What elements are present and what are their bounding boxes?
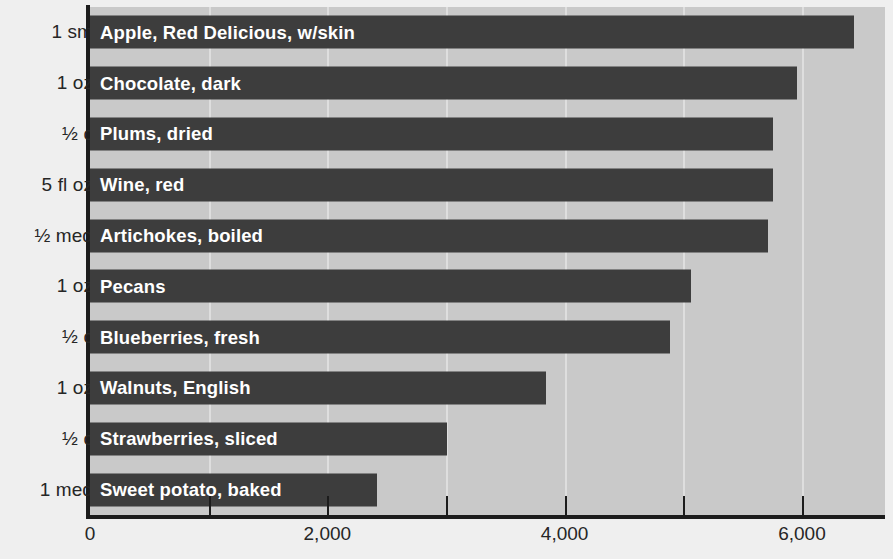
bar-row: 1 smApple, Red Delicious, w/skin (0, 7, 893, 58)
bar[interactable]: Artichokes, boiled (90, 219, 768, 252)
bar-row: 1 ozWalnuts, English (0, 363, 893, 414)
serving-size-label: ½ c (0, 326, 93, 348)
x-axis-tick-4000 (565, 496, 567, 515)
bar-row: ½ cPlums, dried (0, 109, 893, 160)
bar[interactable]: Chocolate, dark (90, 67, 797, 100)
bar[interactable]: Strawberries, sliced (90, 422, 447, 455)
bar-category-label: Apple, Red Delicious, w/skin (90, 21, 355, 43)
bar-row: ½ cStrawberries, sliced (0, 413, 893, 464)
bar[interactable]: Wine, red (90, 168, 773, 201)
bar-chart: 1 smApple, Red Delicious, w/skin1 ozChoc… (0, 0, 893, 559)
bar-row: ½ medArtichokes, boiled (0, 210, 893, 261)
bar-row: 5 fl ozWine, red (0, 159, 893, 210)
bar-category-label: Walnuts, English (90, 377, 251, 399)
x-axis-tick-6000 (802, 496, 804, 515)
x-axis-tick-2000 (327, 496, 329, 515)
serving-size-label: ½ c (0, 123, 93, 145)
serving-size-label: ½ med (0, 225, 93, 247)
serving-size-label: 5 fl oz (0, 174, 93, 196)
bar-category-label: Wine, red (90, 174, 184, 196)
x-axis-tick-1000 (209, 496, 211, 515)
bar[interactable]: Walnuts, English (90, 371, 546, 404)
serving-size-label: 1 sm (0, 21, 93, 43)
x-axis-tick-3000 (446, 496, 448, 515)
bar[interactable]: Apple, Red Delicious, w/skin (90, 16, 854, 49)
bar-category-label: Artichokes, boiled (90, 225, 263, 247)
bar-category-label: Strawberries, sliced (90, 428, 278, 450)
bar-row: 1 ozChocolate, dark (0, 58, 893, 109)
x-axis-label-0: 0 (85, 523, 96, 545)
x-axis-label-2000: 2,000 (304, 523, 352, 545)
x-axis-label-6000: 6,000 (778, 523, 826, 545)
bar-category-label: Blueberries, fresh (90, 326, 260, 348)
serving-size-label: ½ c (0, 428, 93, 450)
bar-rows: 1 smApple, Red Delicious, w/skin1 ozChoc… (0, 0, 893, 559)
serving-size-label: 1 oz (0, 275, 93, 297)
bar-category-label: Pecans (90, 275, 166, 297)
x-axis-tick-5000 (683, 496, 685, 515)
bar[interactable]: Blueberries, fresh (90, 321, 670, 354)
bar-category-label: Plums, dried (90, 123, 213, 145)
serving-size-label: 1 oz (0, 377, 93, 399)
serving-size-label: 1 med (0, 479, 93, 501)
bar-row: ½ cBlueberries, fresh (0, 312, 893, 363)
bar[interactable]: Pecans (90, 270, 691, 303)
bar-category-label: Sweet potato, baked (90, 479, 282, 501)
bar-row: 1 ozPecans (0, 261, 893, 312)
bar[interactable]: Plums, dried (90, 117, 773, 150)
x-axis-label-4000: 4,000 (541, 523, 589, 545)
bar-category-label: Chocolate, dark (90, 72, 241, 94)
bar[interactable]: Sweet potato, baked (90, 473, 377, 506)
serving-size-label: 1 oz (0, 72, 93, 94)
